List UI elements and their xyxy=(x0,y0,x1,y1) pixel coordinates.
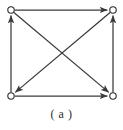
node-bottom-right xyxy=(110,93,116,99)
directed-graph xyxy=(0,0,123,108)
edges-layer xyxy=(11,10,113,96)
node-bottom-left xyxy=(8,93,14,99)
edge-diagonal-tl-to-br xyxy=(14,12,109,92)
figure-container: ( a ) xyxy=(0,0,123,130)
figure-caption: ( a ) xyxy=(0,106,123,122)
edge-diagonal-tr-to-bl xyxy=(15,12,110,92)
node-top-right xyxy=(110,7,116,13)
node-top-left xyxy=(8,7,14,13)
